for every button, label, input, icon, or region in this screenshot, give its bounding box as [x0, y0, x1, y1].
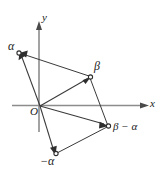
label-beta: β	[94, 60, 100, 72]
point-marker-neg-alpha	[54, 151, 58, 155]
line-neg-alpha-to-beta-minus-alpha	[57, 127, 107, 153]
vector-o-to-neg-alpha	[40, 106, 54, 150]
vector-diagram-figure: α β β − α −α O x y	[0, 0, 160, 177]
point-marker-beta-minus-alpha	[106, 124, 110, 128]
vector-o-to-beta-minus-alpha	[40, 106, 104, 124]
label-beta-minus-alpha: β − α	[113, 121, 137, 132]
vector-o-to-alpha	[22, 56, 41, 106]
label-x-axis: x	[150, 98, 155, 109]
label-y-axis: y	[42, 12, 47, 23]
label-alpha: α	[8, 40, 14, 52]
vector-o-to-beta	[40, 79, 87, 106]
label-neg-alpha: −α	[40, 155, 54, 167]
line-beta-to-beta-minus-alpha	[90, 78, 108, 126]
diagram-canvas	[0, 0, 160, 177]
point-marker-beta	[88, 75, 92, 79]
line-beta-to-alpha	[24, 55, 89, 77]
point-marker-alpha	[17, 51, 21, 55]
x-axis-arrowhead	[140, 103, 149, 109]
label-origin: O	[30, 106, 38, 117]
